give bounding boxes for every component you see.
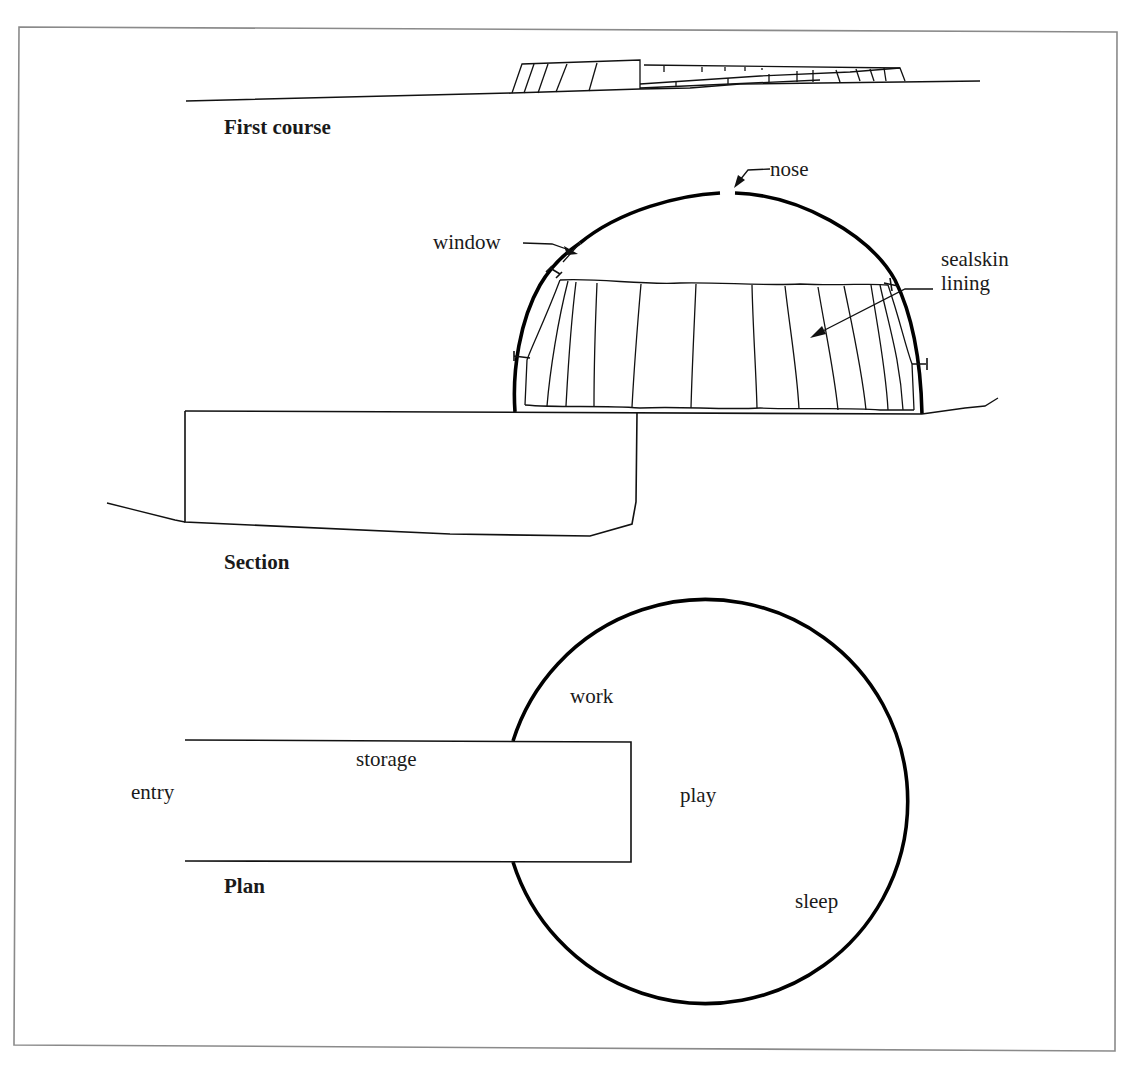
plan-drawing (185, 600, 908, 1004)
first-course-drawing (186, 60, 980, 101)
room-entry: entry (131, 780, 175, 804)
room-play: play (680, 783, 717, 807)
sealskin-label: sealskin (941, 247, 1009, 271)
room-storage: storage (356, 747, 417, 771)
plan-title: Plan (224, 874, 265, 898)
section-title: Section (224, 550, 290, 574)
room-work: work (570, 684, 614, 708)
section-drawing (107, 169, 998, 536)
first-course-title: First course (224, 115, 331, 139)
nose-label: nose (770, 157, 809, 181)
room-sleep: sleep (795, 889, 838, 913)
igloo-diagram: First course (0, 0, 1135, 1076)
figure-frame (14, 27, 1117, 1051)
window-label: window (433, 230, 502, 254)
lining-label: lining (941, 271, 991, 295)
